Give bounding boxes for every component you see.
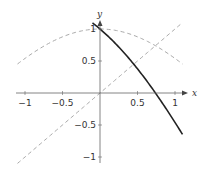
x-tick-label: 0.5	[130, 98, 144, 108]
chart: x y −1−0.50.5110.5−0.5−1	[0, 0, 206, 173]
x-axis-arrow-icon	[182, 91, 188, 96]
y-tick-label: 1	[90, 24, 96, 34]
series-line-2	[93, 23, 183, 134]
y-axis-arrow-icon	[98, 20, 103, 26]
x-tick-label: 1	[172, 98, 178, 108]
x-tick-label: −0.5	[52, 98, 74, 108]
y-axis-label: y	[96, 9, 103, 19]
x-tick-label: −1	[18, 98, 31, 108]
axes: x y	[16, 9, 197, 163]
x-axis-label: x	[192, 88, 197, 98]
y-tick-label: 0.5	[82, 56, 96, 66]
y-tick-label: −0.5	[74, 120, 96, 130]
y-tick-label: −1	[83, 152, 96, 162]
